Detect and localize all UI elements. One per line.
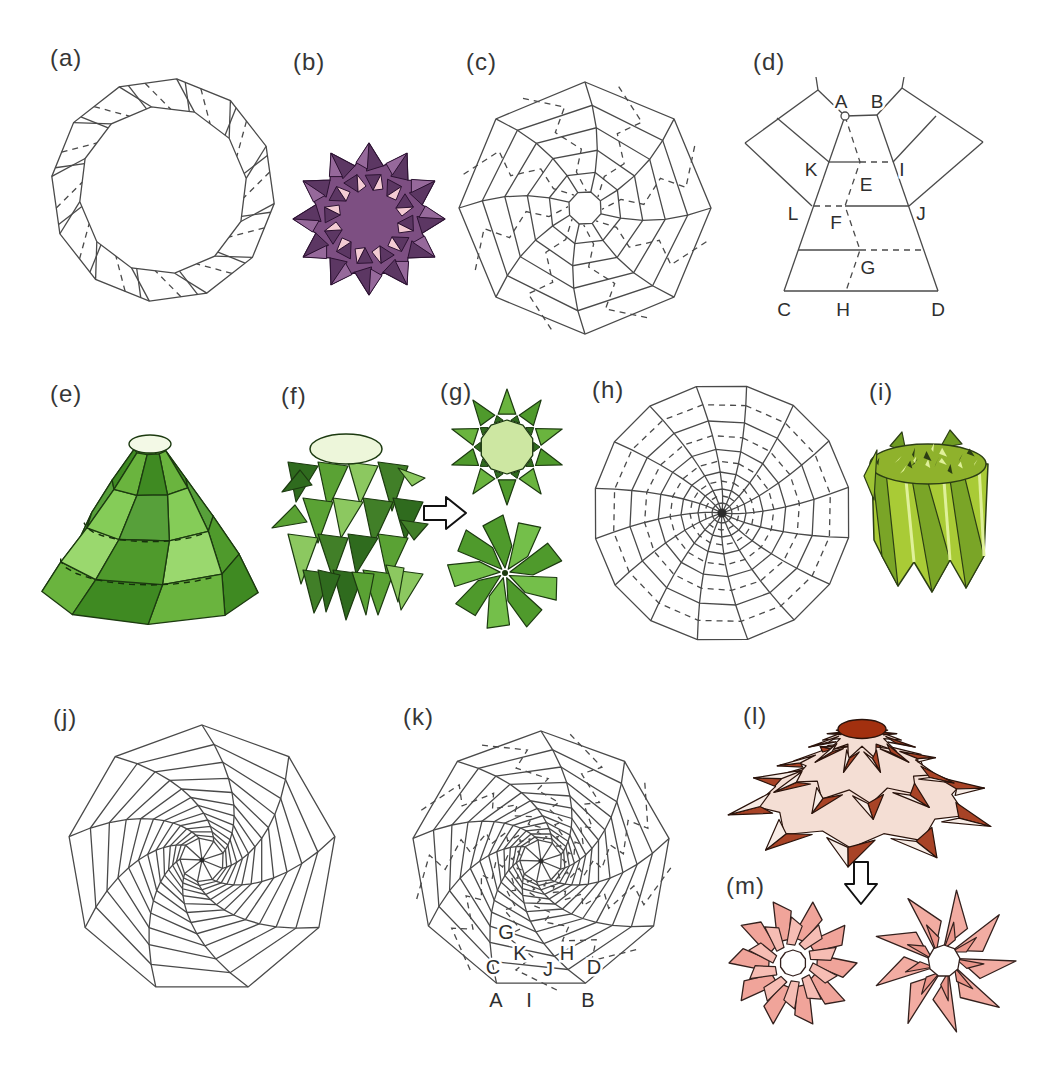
- panel-label-a: (a): [50, 44, 82, 72]
- svg-text:B: B: [871, 91, 884, 112]
- panel-j-spiral-web: [69, 725, 335, 987]
- panel-a-crease-ring: [52, 79, 274, 301]
- svg-text:I: I: [899, 159, 904, 180]
- panel-c-octagon-web: [459, 82, 711, 334]
- panel-label-e: (e): [50, 380, 82, 408]
- svg-text:D: D: [931, 299, 945, 320]
- figure-graphics: GKCJHDAIBABKEILFJGCHD: [0, 0, 1040, 1068]
- svg-text:K: K: [513, 942, 527, 964]
- panel-label-l: (l): [743, 702, 767, 730]
- figure-page: GKCJHDAIBABKEILFJGCHD (a) (b) (c) (d) (e…: [0, 0, 1040, 1068]
- panel-label-c: (c): [466, 48, 497, 76]
- svg-text:C: C: [486, 956, 500, 978]
- panel-label-k: (k): [403, 703, 434, 731]
- panel-b-folded-wreath: [293, 143, 445, 295]
- svg-text:J: J: [543, 958, 553, 980]
- panel-label-h: (h): [592, 376, 624, 404]
- panel-label-f: (f): [281, 382, 307, 410]
- svg-text:G: G: [498, 921, 514, 943]
- panel-label-j: (j): [53, 704, 77, 732]
- panel-label-b: (b): [293, 48, 325, 76]
- panel-d-detail-diagram: ABKEILFJGCHD: [745, 77, 983, 320]
- svg-text:D: D: [587, 956, 601, 978]
- arrow-down-icon: [845, 862, 877, 904]
- svg-text:A: A: [835, 91, 848, 112]
- panel-label-d: (d): [753, 48, 785, 76]
- svg-text:I: I: [526, 989, 532, 1011]
- panel-l-folded-dome: [728, 720, 991, 868]
- svg-text:G: G: [861, 257, 876, 278]
- panel-h-circular-web: [595, 386, 848, 639]
- svg-text:H: H: [836, 299, 850, 320]
- svg-text:J: J: [916, 203, 926, 224]
- svg-text:A: A: [489, 989, 503, 1011]
- svg-text:K: K: [805, 159, 818, 180]
- panel-g-star-models: [448, 389, 563, 628]
- svg-text:L: L: [788, 203, 799, 224]
- panel-label-m: (m): [726, 872, 765, 900]
- panel-m-flower-models: [729, 890, 1016, 1032]
- svg-text:E: E: [860, 174, 873, 195]
- panel-label-i: (i): [869, 378, 893, 406]
- svg-text:C: C: [777, 299, 791, 320]
- arrow-right-icon: [424, 497, 466, 529]
- panel-f-folded-tower: [272, 434, 428, 620]
- panel-label-g: (g): [440, 378, 472, 406]
- svg-text:H: H: [560, 942, 574, 964]
- panel-i-folded-cylinder: [864, 430, 988, 592]
- panel-k-spiral-web-labeled: GKCJHDAIB: [413, 731, 671, 1011]
- svg-text:F: F: [830, 212, 842, 233]
- svg-text:B: B: [581, 989, 594, 1011]
- panel-e-folded-cone: [42, 435, 258, 624]
